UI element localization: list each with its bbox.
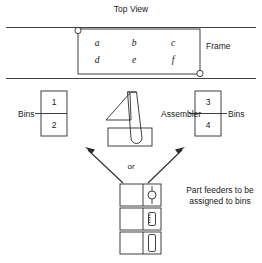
frame-label: Frame [206, 42, 231, 51]
part-feeder-3 [120, 232, 161, 254]
pallet-cell-e: e [127, 55, 141, 65]
assembler-arm [128, 92, 143, 144]
pallet-pin-bottom-right-icon [197, 70, 203, 76]
bin-label-4: 4 [201, 120, 215, 130]
part-feeders-note: Part feeders to be assigned to bins [186, 185, 254, 207]
short-block-part-icon [149, 213, 156, 226]
pallet-cell-c: c [166, 38, 180, 48]
pallet-cell-f: f [166, 55, 180, 65]
pallet-cell-a: a [90, 38, 104, 48]
or-label: or [0, 163, 262, 171]
part-feeder-1 [120, 184, 161, 206]
pallet-cell-b: b [127, 38, 141, 48]
bin-label-2: 2 [47, 120, 61, 130]
pallet-cell-d: d [90, 55, 104, 65]
bins-right-label: Bins [228, 110, 245, 119]
round-part-icon [148, 191, 156, 199]
assembler-label: Assembler [161, 110, 201, 119]
pallet-pin-top-left-icon [75, 27, 81, 33]
pallet-rectangle [78, 29, 200, 74]
bin-label-3: 3 [201, 97, 215, 107]
bin-label-1: 1 [47, 97, 61, 107]
assembler-triangle-link [106, 93, 131, 120]
bins-left-label: Bins [18, 110, 35, 119]
page-title: Top View [0, 5, 262, 14]
diagram-canvas: Top View Frame Bins Assembler Bins or Pa… [0, 0, 262, 263]
tall-block-part-icon [149, 235, 156, 252]
part-feeder-2 [120, 208, 161, 230]
